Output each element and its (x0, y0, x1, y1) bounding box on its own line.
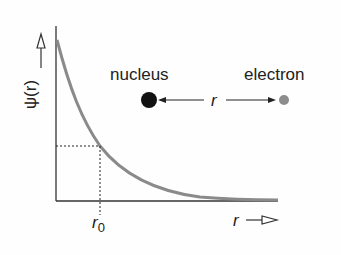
distance-arrow-left-icon (158, 97, 204, 103)
diagram-graphics (0, 0, 341, 255)
x-axis-label: r (233, 212, 239, 229)
electron-dot (279, 95, 289, 105)
wavefunction-diagram: ψ(r) nucleus electron r r0 r (0, 0, 341, 255)
r0-subscript: 0 (98, 220, 105, 235)
r0-label: r0 (92, 214, 105, 234)
distance-label: r (211, 92, 217, 109)
wavefunction-curve (57, 40, 278, 200)
distance-arrow-right-icon (226, 97, 276, 103)
nucleus-dot (141, 92, 157, 108)
y-axis-arrow-icon (37, 34, 45, 68)
y-axis-label: ψ(r) (22, 80, 39, 109)
x-axis-arrow-icon (246, 216, 277, 224)
nucleus-label: nucleus (110, 66, 169, 83)
electron-label: electron (244, 66, 304, 83)
